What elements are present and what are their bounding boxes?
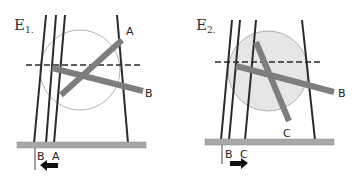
panel-e1-base-label-a: A (52, 150, 60, 163)
panel-e2-title: E2. (196, 16, 216, 35)
panel-e1-bar-a (61, 40, 122, 95)
panel-e2-base-label-b: B (225, 148, 233, 161)
panel-e1-line-3 (54, 15, 65, 143)
panel-e2-base-bar (205, 139, 334, 145)
panel-e1-title: E1. (14, 16, 34, 35)
panel-e1-label-a: A (126, 25, 134, 38)
panel-e1-line-2 (46, 15, 56, 143)
panel-e1-line-1 (34, 15, 46, 143)
panel-e1-base-label-b: B (37, 150, 45, 163)
panel-e1-base-bar (17, 142, 146, 148)
panel-e1-label-b: B (145, 87, 153, 100)
diagram-canvas: E1. A B B A E2. B C B C (0, 0, 356, 182)
panel-e2-label-c: C (283, 127, 291, 140)
panel-e2: E2. B C B C (196, 16, 346, 169)
panel-e2-label-b: B (338, 87, 346, 100)
panel-e1: E1. A B B A (14, 15, 153, 171)
